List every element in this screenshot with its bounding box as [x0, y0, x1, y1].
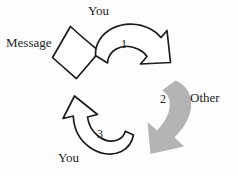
label-you-top: You [88, 4, 109, 17]
arrow-3-outline-shape [63, 96, 134, 154]
diagram-canvas: You Message 1 2 Other 3 You [0, 0, 238, 176]
label-step-3: 3 [97, 128, 103, 140]
label-step-2: 2 [160, 93, 166, 105]
label-other: Other [190, 91, 220, 104]
arrow-1-outline-shape [95, 24, 170, 64]
arrow-2-gray-shape [148, 81, 192, 155]
label-you-bottom: You [58, 151, 79, 164]
cycle-diagram-svg [0, 0, 238, 176]
message-box-shape [53, 27, 100, 79]
label-step-1: 1 [121, 38, 127, 50]
label-message: Message [6, 36, 52, 49]
